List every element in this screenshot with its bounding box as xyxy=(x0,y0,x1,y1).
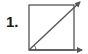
diagonal-vector-arrow xyxy=(29,2,80,50)
square-with-diagonal-vector-diagram xyxy=(0,0,88,54)
angle-arc-icon xyxy=(34,45,36,50)
